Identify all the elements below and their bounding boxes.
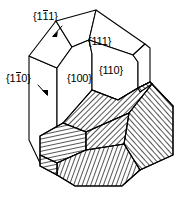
face-label-1bar11-close: } <box>54 10 57 22</box>
face-label-1bar11: {111} <box>33 11 58 22</box>
face-label-1bar10-digit2-overbar: 1 <box>15 73 21 84</box>
face-label-100-close: } <box>88 72 91 84</box>
face-label-1bar10: {110} <box>6 73 31 84</box>
face-label-111-close: } <box>108 35 111 47</box>
face-label-100: {100} <box>67 73 92 84</box>
face-label-1bar10-close: } <box>27 72 30 84</box>
crystal-drawing <box>0 0 192 197</box>
face-label-110: {110} <box>99 65 123 76</box>
crystal-figure: {111} {111} {110} {100} {110} <box>0 0 192 197</box>
face-label-111: {111} <box>88 36 111 47</box>
face-label-110-close: } <box>119 64 122 76</box>
face-label-1bar11-digit2-overbar: 1 <box>42 11 48 22</box>
